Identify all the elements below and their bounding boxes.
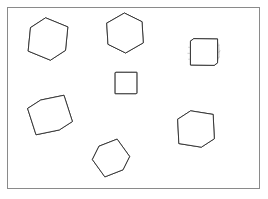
mesh-silhouette-overstroke xyxy=(28,95,73,135)
mesh-cube-iso xyxy=(178,111,215,147)
mesh-cube-tilt xyxy=(28,95,73,135)
mesh-silhouette-overstroke xyxy=(107,13,144,53)
wireframe-scene xyxy=(0,0,268,199)
figure-canvas xyxy=(0,0,268,199)
mesh-silhouette-overstroke xyxy=(28,18,68,60)
mesh-cube-iso xyxy=(28,18,68,60)
mesh-silhouette-overstroke xyxy=(190,39,217,66)
mesh-silhouette-overstroke xyxy=(92,139,129,177)
shape-layer xyxy=(28,13,221,177)
mesh-silhouette-overstroke xyxy=(115,72,137,93)
mesh-cube-barrel xyxy=(187,39,220,66)
mesh-silhouette-overstroke xyxy=(178,111,215,147)
mesh-cube-pent xyxy=(92,139,129,177)
mesh-cube-hex xyxy=(107,13,144,53)
mesh-cube-flat xyxy=(115,72,137,93)
